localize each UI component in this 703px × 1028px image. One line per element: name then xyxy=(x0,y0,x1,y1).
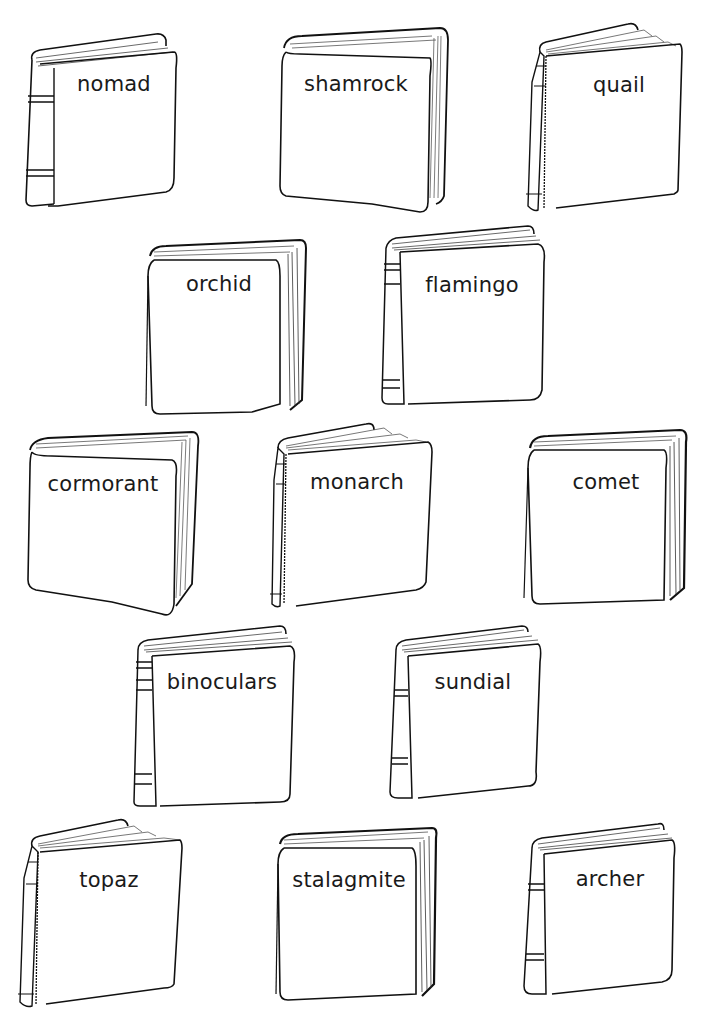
book-label: flamingo xyxy=(402,273,542,297)
book-nomad: nomad xyxy=(18,28,180,206)
book-label: monarch xyxy=(290,470,424,494)
book-pages-right-drawing xyxy=(22,428,202,620)
book-fanned-left-drawing xyxy=(266,420,438,612)
book-flamingo: flamingo xyxy=(378,222,552,408)
book-sundial: sundial xyxy=(388,622,548,800)
book-label: nomad xyxy=(54,72,174,96)
book-monarch: monarch xyxy=(266,420,438,612)
book-archer: archer xyxy=(522,818,682,996)
book-label: sundial xyxy=(410,670,536,694)
book-label: quail xyxy=(560,73,678,97)
book-pages-right-drawing xyxy=(272,26,452,214)
book-label: orchid xyxy=(156,272,282,296)
book-label: stalagmite xyxy=(282,868,416,892)
book-quail: quail xyxy=(516,22,686,214)
book-stalagmite: stalagmite xyxy=(272,824,440,1004)
book-pages-right-drawing xyxy=(272,824,440,1004)
book-label: cormorant xyxy=(28,472,178,496)
book-binoculars: binoculars xyxy=(130,624,302,806)
book-pages-right-drawing xyxy=(520,428,690,608)
book-spine-left-drawing xyxy=(130,624,302,806)
book-cormorant: cormorant xyxy=(22,428,202,620)
book-label: topaz xyxy=(44,868,174,892)
book-spine-left-drawing xyxy=(378,222,552,408)
book-label: shamrock xyxy=(286,72,426,96)
book-orchid: orchid xyxy=(140,236,308,416)
book-spine-left-drawing xyxy=(522,818,682,996)
book-fanned-left-drawing xyxy=(516,22,686,214)
book-shamrock: shamrock xyxy=(272,26,452,214)
book-topaz: topaz xyxy=(14,818,186,1010)
book-label: archer xyxy=(546,867,674,891)
book-spine-left-drawing xyxy=(18,28,180,206)
book-fanned-left-drawing xyxy=(14,818,186,1010)
book-pages-right-drawing xyxy=(140,236,308,416)
book-spine-left-drawing xyxy=(388,622,548,800)
book-comet: comet xyxy=(520,428,690,608)
book-label: comet xyxy=(540,470,672,494)
book-label: binoculars xyxy=(152,670,292,694)
